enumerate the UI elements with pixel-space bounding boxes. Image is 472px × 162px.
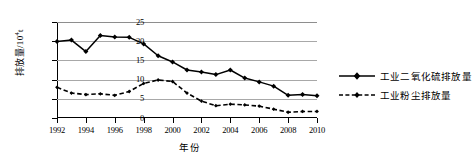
- data-point: [214, 104, 218, 108]
- data-point: [213, 72, 218, 77]
- y-axis-label: 排放量/104t: [13, 7, 26, 99]
- data-point: [300, 92, 305, 97]
- x-axis-label: 年份: [0, 140, 380, 154]
- x-tick-mark-1992: [57, 118, 58, 123]
- series-line: [57, 35, 317, 95]
- y-axis-label-unit: t: [15, 29, 25, 32]
- x-tick-label-2010: 2010: [300, 126, 334, 135]
- x-tick-mark-2004: [230, 118, 231, 123]
- data-point: [113, 93, 117, 97]
- data-point: [243, 103, 247, 107]
- legend-label-dust: 工业粉尘排放量: [376, 88, 451, 102]
- x-tick-mark-2010: [317, 118, 318, 123]
- data-point: [257, 104, 261, 108]
- legend-label-so2: 工业二氧化硫排放量: [376, 69, 472, 83]
- x-tick-mark-1996: [115, 118, 116, 123]
- x-tick-mark-2002: [201, 118, 202, 123]
- series-dust: [55, 78, 319, 114]
- x-tick-mark-2008: [288, 118, 289, 123]
- data-point: [315, 110, 319, 114]
- x-tick-mark-1998: [144, 118, 145, 123]
- legend-solid-line-icon: [338, 70, 376, 82]
- data-point: [272, 107, 276, 111]
- data-point: [156, 78, 160, 82]
- series-line: [57, 80, 317, 112]
- data-series-layer: [57, 22, 317, 118]
- data-point: [228, 102, 232, 106]
- y-axis-label-exponent: 4: [13, 32, 20, 36]
- legend-item-so2: 工业二氧化硫排放量: [338, 66, 464, 85]
- data-point: [286, 110, 290, 114]
- series-so2: [55, 33, 320, 98]
- data-point: [112, 34, 117, 39]
- chart-legend: 工业二氧化硫排放量 工业粉尘排放量: [338, 66, 464, 104]
- x-tick-mark-2000: [173, 118, 174, 123]
- x-tick-mark-2006: [259, 118, 260, 123]
- data-point: [127, 35, 132, 40]
- y-axis-label-base: 排放量/10: [15, 36, 25, 76]
- data-point: [98, 92, 102, 96]
- legend-item-dust: 工业粉尘排放量: [338, 85, 464, 104]
- data-point: [70, 91, 74, 95]
- data-point: [127, 90, 131, 94]
- data-point: [199, 69, 204, 74]
- legend-dashed-line-icon: [338, 89, 376, 101]
- x-tick-mark-1994: [86, 118, 87, 123]
- data-point: [84, 93, 88, 97]
- data-point: [315, 93, 320, 98]
- data-point: [55, 39, 60, 44]
- data-point: [301, 110, 305, 114]
- data-point: [257, 79, 262, 84]
